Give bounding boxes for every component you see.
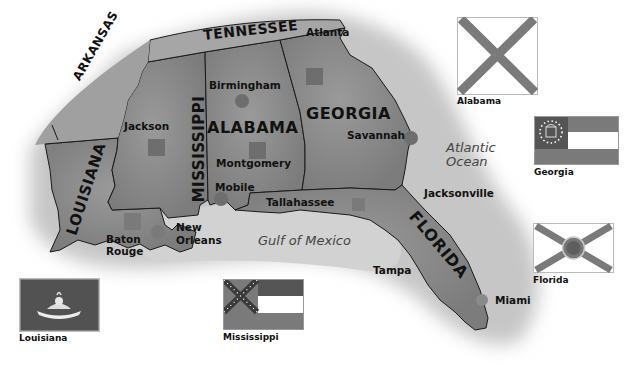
marker-savannah [404, 131, 418, 145]
flag-caption-louisiana: Louisiana [19, 333, 67, 343]
marker-tallahassee [352, 198, 365, 211]
city-label-mobile: Mobile [215, 181, 255, 193]
marker-jackson [148, 139, 165, 156]
city-label-montgomery: Montgomery [216, 157, 291, 169]
marker-mobile [214, 192, 228, 206]
water-label-atlantic-line1: Atlantic [446, 141, 496, 155]
state-label-alabama: ALABAMA [207, 118, 298, 137]
city-label-miami: Miami [495, 294, 531, 306]
city-label-savannah: Savannah [347, 129, 405, 141]
state-label-georgia: GEORGIA [306, 104, 391, 123]
water-label-atlantic: Atlantic Ocean [446, 141, 496, 169]
city-label-new-orleans-line1: New [176, 221, 222, 234]
city-label-baton-rouge-line2: Rouge [106, 245, 143, 257]
city-label-tampa: Tampa [373, 264, 411, 276]
flag-louisiana [19, 278, 100, 332]
flag-caption-alabama: Alabama [457, 96, 501, 106]
city-label-new-orleans: New Orleans [176, 221, 222, 247]
city-label-jacksonville: Jacksonville [424, 187, 494, 199]
city-label-atlanta: Atlanta [306, 26, 349, 38]
city-label-new-orleans-line2: Orleans [176, 234, 222, 247]
flag-alabama [457, 17, 538, 95]
city-label-baton-rouge-line1: Baton [106, 233, 143, 245]
state-label-mississippi: MISSISSIPPI [190, 96, 208, 203]
water-label-atlantic-line2: Ocean [446, 155, 496, 169]
city-label-birmingham: Birmingham [209, 79, 281, 91]
flag-caption-georgia: Georgia [534, 167, 574, 177]
marker-miami [476, 294, 488, 306]
flag-florida [533, 223, 614, 273]
flag-mississippi [223, 279, 304, 330]
marker-birmingham [235, 94, 249, 108]
city-label-jackson: Jackson [124, 120, 169, 132]
marker-new-orleans [151, 225, 165, 239]
city-label-tallahassee: Tallahassee [266, 196, 334, 208]
flag-caption-florida: Florida [533, 275, 568, 285]
marker-atlanta [306, 68, 323, 85]
flag-georgia [534, 116, 619, 165]
water-label-gulf: Gulf of Mexico [258, 234, 351, 248]
city-label-baton-rouge: Baton Rouge [106, 233, 143, 257]
flag-caption-mississippi: Mississippi [223, 332, 279, 342]
marker-baton-rouge [124, 213, 141, 230]
